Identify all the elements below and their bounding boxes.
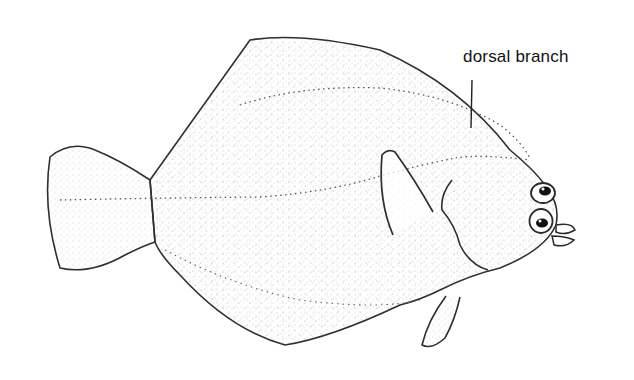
label-pointer (471, 80, 472, 128)
dorsal-branch-label: dorsal branch (463, 47, 569, 67)
mouth (552, 224, 575, 246)
caudal-fin (48, 146, 155, 270)
pelvic-fin (422, 296, 460, 346)
